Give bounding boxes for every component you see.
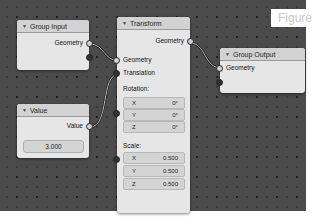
rotation-x-field[interactable]: X0° [123,97,185,109]
collapse-chevron-icon[interactable]: ▼ [22,104,27,116]
scale-z-field[interactable]: Z0.500 [123,178,185,190]
scale-y-field[interactable]: Y0.500 [123,165,185,177]
value-node[interactable]: ▼Value Value 3.000 [17,104,89,158]
group-input-title: Group Input [30,23,67,30]
transform-output-geometry-label: Geometry [155,37,184,44]
group-input-geometry-label: Geometry [54,39,83,46]
value-header[interactable]: ▼Value [17,104,89,117]
group-output-header[interactable]: ▼Group Output [220,48,305,61]
scale-label: Scale: [123,142,141,149]
transform-geometry-input-label: Geometry [123,56,152,63]
group-output-empty-socket[interactable] [216,79,223,86]
group-output-geometry-socket[interactable] [216,65,223,72]
group-input-header[interactable]: ▼Group Input [17,20,89,33]
rotation-z-field[interactable]: Z0° [123,121,185,133]
value-title: Value [30,107,47,114]
group-output-geometry-label: Geometry [226,64,255,71]
group-output-title: Group Output [233,51,275,58]
transform-node[interactable]: ▼Transform Geometry Geometry Translation… [117,17,190,213]
transform-geometry-input-socket[interactable] [113,57,120,64]
scale-x-field[interactable]: X0.500 [123,152,185,164]
collapse-chevron-icon[interactable]: ▼ [225,48,230,60]
collapse-chevron-icon[interactable]: ▼ [122,17,127,29]
value-field[interactable]: 3.000 [23,140,84,153]
group-input-geometry-socket[interactable] [86,40,93,47]
scale-socket[interactable] [113,156,120,163]
transform-translation-socket[interactable] [113,70,120,77]
value-output-socket[interactable] [86,123,93,130]
transform-translation-label: Translation [123,69,155,76]
rotation-y-field[interactable]: Y0° [123,109,185,121]
figure-label: Figure [271,9,314,27]
group-input-empty-socket[interactable] [86,54,93,61]
collapse-chevron-icon[interactable]: ▼ [22,20,27,32]
group-output-node[interactable]: ▼Group Output Geometry [220,48,305,93]
value-output-label: Value [67,122,83,129]
rotation-socket[interactable] [113,110,120,117]
transform-output-geometry-socket[interactable] [187,38,194,45]
transform-title: Transform [130,20,162,27]
transform-header[interactable]: ▼Transform [117,17,190,30]
rotation-label: Rotation: [123,85,149,92]
group-input-node[interactable]: ▼Group Input Geometry [17,20,89,70]
